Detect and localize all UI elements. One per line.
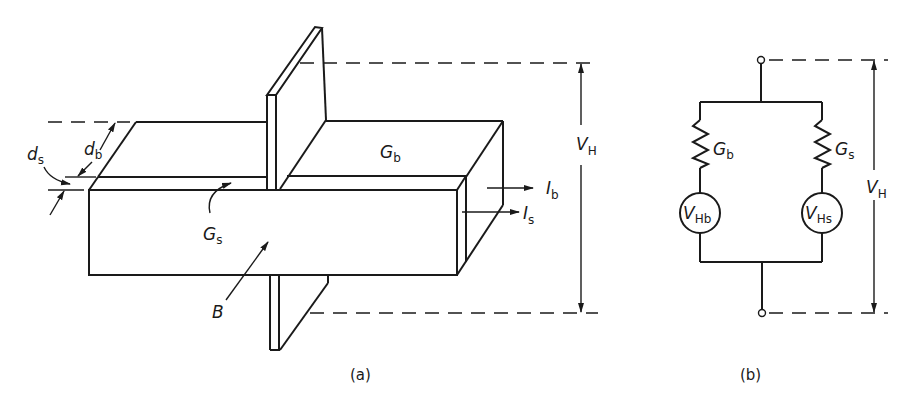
thickness-dimensions (44, 122, 130, 215)
panel-a-sample-diagram: ds db Gb Gs B Ib Is VH (a) (27, 27, 598, 384)
label-vhs: VHs (805, 203, 832, 226)
label-gs-surface: Gs (203, 224, 222, 247)
label-is: Is (523, 203, 534, 227)
resistor-gb-icon (693, 120, 708, 168)
label-vhb: VHb (683, 203, 711, 226)
bulk-branch (680, 102, 720, 262)
panel-b-equivalent-circuit: Gb Gs VHb VHs VH (b) (680, 57, 888, 385)
label-ib: Ib (546, 178, 559, 202)
label-b-field: B (212, 302, 224, 322)
label-vh-a: VH (576, 134, 597, 158)
hall-effect-figure: ds db Gb Gs B Ib Is VH (a) (0, 0, 921, 402)
label-gs-circuit: Gs (835, 139, 854, 162)
resistor-gs-icon (815, 120, 830, 168)
label-ds: ds (27, 144, 44, 167)
surface-branch (802, 102, 842, 262)
magnetic-field-arrow (226, 242, 268, 300)
caption-a: (a) (350, 366, 371, 384)
label-gb-bulk: Gb (380, 142, 401, 165)
label-gb-circuit: Gb (713, 139, 734, 162)
label-db: db (84, 139, 102, 162)
bottom-terminal (759, 310, 766, 317)
sample-right-face (457, 121, 503, 275)
caption-b: (b) (740, 366, 761, 384)
label-vh-b: VH (866, 177, 887, 201)
sample-front-face (89, 190, 457, 275)
top-terminal (758, 57, 765, 64)
sample-top-face (89, 121, 503, 190)
surface-conductance-pointer (209, 183, 231, 213)
upper-hall-electrode (267, 27, 326, 189)
